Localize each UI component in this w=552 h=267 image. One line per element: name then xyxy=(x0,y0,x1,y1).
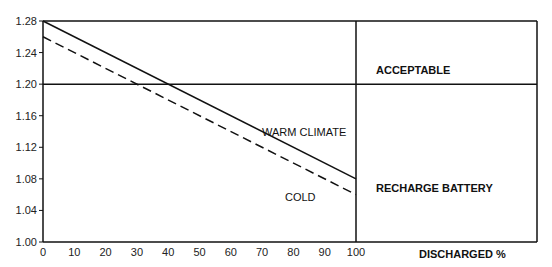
x-tick-label: 80 xyxy=(287,246,299,258)
region-label-acceptable: ACCEPTABLE xyxy=(376,64,450,76)
x-axis-label: DISCHARGED % xyxy=(419,248,506,260)
x-tick-label: 100 xyxy=(347,246,365,258)
y-tick-label: 1.12 xyxy=(16,141,37,153)
series-line-warm xyxy=(43,21,356,179)
x-tick-label: 40 xyxy=(162,246,174,258)
x-tick-label: 0 xyxy=(40,246,46,258)
series-label-warm: WARM CLIMATE xyxy=(262,126,346,138)
y-tick-label: 1.08 xyxy=(16,173,37,185)
x-tick-label: 20 xyxy=(99,246,111,258)
x-tick-label: 30 xyxy=(131,246,143,258)
region-label-recharge: RECHARGE BATTERY xyxy=(376,182,493,194)
series-line-cold xyxy=(43,37,356,195)
y-tick-label: 1.04 xyxy=(16,204,37,216)
x-tick-label: 50 xyxy=(193,246,205,258)
y-tick-label: 1.16 xyxy=(16,110,37,122)
y-tick-label: 1.24 xyxy=(16,47,37,59)
x-tick-label: 10 xyxy=(68,246,80,258)
chart: 1.001.041.081.121.161.201.241.28 0102030… xyxy=(0,0,552,267)
series-label-cold: COLD xyxy=(285,191,316,203)
y-tick-label: 1.00 xyxy=(16,236,37,248)
y-tick-label: 1.20 xyxy=(16,78,37,90)
x-tick-label: 90 xyxy=(319,246,331,258)
x-tick-label: 60 xyxy=(225,246,237,258)
y-tick-label: 1.28 xyxy=(16,15,37,27)
x-tick-label: 70 xyxy=(256,246,268,258)
